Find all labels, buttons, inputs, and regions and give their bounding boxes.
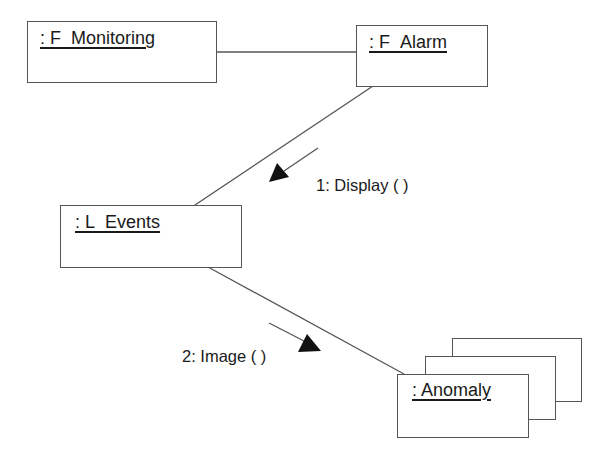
message-2-arrow	[269, 323, 321, 352]
arrowhead-icon	[298, 334, 321, 352]
message-1-label: 1: Display ( )	[316, 176, 409, 194]
object-f-alarm[interactable]: : F_Alarm	[356, 25, 488, 87]
object-f-monitoring[interactable]: : F_Monitoring	[27, 21, 217, 83]
message-2-label: 2: Image ( )	[182, 347, 266, 365]
message-1-arrow	[269, 148, 318, 182]
object-name: : F_Monitoring	[40, 28, 155, 48]
arrowhead-icon	[269, 163, 289, 182]
object-name: : F_Alarm	[369, 32, 447, 52]
object-anomaly[interactable]: : Anomaly	[397, 374, 529, 438]
object-name: : Anomaly	[412, 380, 491, 400]
object-l-events[interactable]: : L_Events	[60, 205, 242, 268]
object-name: : L_Events	[75, 212, 160, 232]
collaboration-diagram: : F_Monitoring : F_Alarm : L_Events : An…	[0, 0, 613, 464]
